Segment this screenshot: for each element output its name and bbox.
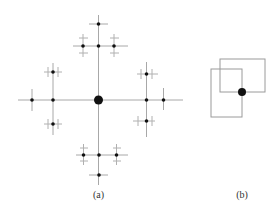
top-mid-node xyxy=(97,44,101,48)
right-top-node xyxy=(145,72,149,76)
bottom-mid-node xyxy=(97,153,101,157)
bottom-right-node xyxy=(115,153,119,157)
panel-b-label: (b) xyxy=(236,189,248,200)
right-mid-node xyxy=(145,98,149,102)
left-bottom-node xyxy=(51,122,55,126)
bottom-left-node xyxy=(82,153,86,157)
left-mid-node xyxy=(51,98,55,102)
center-node xyxy=(94,96,103,105)
top-tip-node xyxy=(97,22,101,26)
intersection-dot xyxy=(238,88,246,96)
panel-b-overlap xyxy=(211,59,265,117)
panel-a-label: (a) xyxy=(93,189,104,200)
bottom-tip-node xyxy=(97,173,101,177)
rect-b xyxy=(211,69,242,117)
left-top-node xyxy=(51,70,55,74)
left-tip-node xyxy=(30,98,34,102)
right-bottom-node xyxy=(145,119,149,123)
panel-a-fractal xyxy=(18,15,183,185)
top-right-node xyxy=(112,44,116,48)
top-left-node xyxy=(81,44,85,48)
figure-canvas xyxy=(0,0,279,219)
right-tip-node xyxy=(162,98,166,102)
